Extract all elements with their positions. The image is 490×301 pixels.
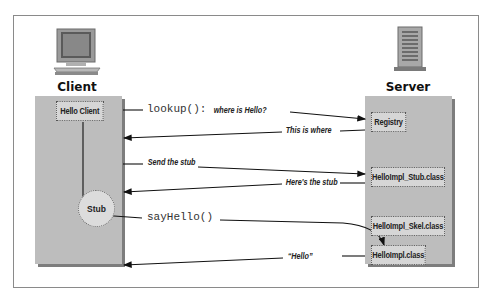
registry-box: Registry bbox=[371, 112, 406, 132]
heres-the-stub-label: Here's the stub bbox=[284, 177, 339, 187]
helloimpl-skel-class-box: HelloImpl_Skel.class bbox=[371, 216, 445, 236]
helloimpl-stub-class-box: HelloImpl_Stub.class bbox=[371, 167, 445, 187]
lookup-code-label: lookup(): bbox=[147, 103, 206, 115]
hello-reply-label: “Hello” bbox=[286, 251, 314, 261]
this-is-where-label: This is where bbox=[284, 125, 333, 135]
send-the-stub-label: Send the stub bbox=[146, 157, 197, 167]
helloimpl-class-box: HelloImpl.class bbox=[371, 245, 426, 265]
lookup-question-label: where is Hello? bbox=[212, 105, 268, 115]
hello-client-box: Hello Client bbox=[56, 101, 104, 121]
stub-circle: Stub bbox=[78, 190, 115, 227]
say-hello-code-label: sayHello() bbox=[147, 211, 213, 223]
